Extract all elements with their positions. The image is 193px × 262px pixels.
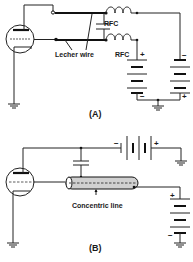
lecher-wire-pair (34, 11, 108, 41)
ground-icon (8, 54, 20, 108)
panel-a-caption: (A) (89, 109, 102, 119)
minus-sign: − (114, 139, 119, 148)
ground-icon (175, 161, 187, 165)
arrow-icon (86, 14, 92, 50)
plus-sign: + (140, 50, 145, 59)
battery-left-icon (127, 60, 180, 100)
rfc-label-lower: RFC (115, 51, 129, 58)
panel-b-caption: (B) (89, 243, 102, 253)
arrow-icon (65, 40, 72, 50)
ground-icon (7, 197, 19, 247)
plus-sign: + (182, 92, 187, 101)
circuit-diagram: RFC RFC Lecher wire + − − + (0, 0, 193, 262)
battery-top-icon (121, 136, 181, 161)
minus-sign: − (168, 231, 173, 240)
concentric-line-label: Concentric line (72, 202, 123, 209)
panel-b: Concentric line − + + − (6, 136, 190, 253)
battery-right-icon (170, 60, 190, 93)
capacitor-icon (73, 148, 89, 178)
plus-sign: + (154, 139, 159, 148)
battery-right-icon (170, 199, 190, 243)
plus-sign: + (170, 191, 175, 200)
minus-sign: − (182, 51, 187, 60)
minus-sign: − (140, 92, 145, 101)
triode-tube-icon (6, 168, 34, 197)
lecher-wire-label: Lecher wire (55, 51, 94, 58)
plate-lead (24, 5, 53, 30)
panel-a: RFC RFC Lecher wire + − − + (6, 5, 190, 119)
triode-tube-icon (6, 25, 34, 54)
ground-icon (174, 243, 186, 247)
rfc-label-upper: RFC (104, 20, 118, 27)
concentric-line-icon (66, 177, 138, 189)
